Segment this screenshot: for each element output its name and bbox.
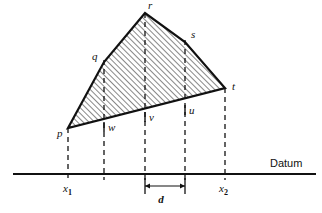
station-label-x2: x2 [218,182,228,197]
datum-label: Datum [270,157,302,169]
vertex-label-w: w [108,121,116,133]
vertex-label-p: p [56,127,63,139]
vertex-label-t: t [232,80,236,92]
dimension-arrowhead-left [145,183,150,188]
vertex-label-v: v [149,111,154,123]
hatched-section-fill [0,0,322,213]
diagram-canvas: p q r s t u v w x1 x2 d Datum [0,0,322,213]
vertex-label-r: r [148,0,153,11]
dimension-arrowhead-right [180,183,185,188]
station-label-x1: x1 [62,182,72,197]
cross-section-figure: p q r s t u v w x1 x2 d Datum [0,0,322,213]
dimension-d-group [145,178,185,194]
dimension-label-d: d [158,193,164,205]
vertex-label-s: s [191,28,195,40]
vertex-label-u: u [189,104,195,116]
vertex-label-q: q [92,50,98,62]
